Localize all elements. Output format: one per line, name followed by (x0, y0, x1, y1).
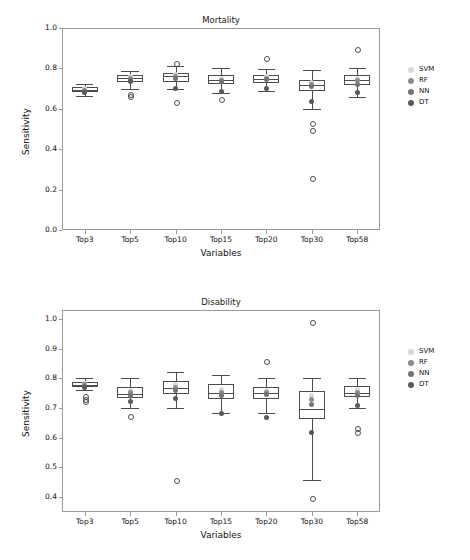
box-outlier (174, 478, 180, 484)
y-tick-mark (59, 378, 63, 379)
y-tick-label: 0.8 (32, 63, 57, 72)
y-tick-label: 0.6 (32, 433, 57, 442)
y-tick-label: 0.7 (32, 403, 57, 412)
legend-swatch-rf (408, 78, 414, 84)
x-tick-mark (130, 230, 131, 234)
y-tick-label: 0.4 (32, 492, 57, 501)
x-tick-mark (85, 230, 86, 234)
y-tick-mark (59, 230, 63, 231)
box-whisker (130, 378, 131, 386)
x-tick-label: Top5 (108, 235, 152, 244)
x-tick-mark (130, 512, 131, 516)
x-tick-label: Top10 (154, 517, 198, 526)
data-point-rf (309, 397, 314, 402)
data-point-nn (355, 393, 360, 398)
y-tick-mark (59, 467, 63, 468)
box-outlier (174, 61, 180, 67)
x-tick-mark (312, 230, 313, 234)
y-tick-label: 0.9 (32, 344, 57, 353)
box-whisker-cap (258, 378, 275, 379)
box-whisker (312, 419, 313, 480)
legend-label: SVM (419, 64, 434, 75)
box-whisker-cap (76, 378, 93, 379)
box-whisker-cap (76, 96, 93, 97)
box-outlier (174, 100, 180, 106)
box-whisker-cap (303, 378, 320, 379)
box-whisker-cap (303, 109, 320, 110)
x-tick-label: Top15 (199, 235, 243, 244)
x-axis-label-disability: Variables (62, 530, 380, 540)
x-tick-mark (266, 230, 267, 234)
box-outlier (310, 128, 316, 134)
y-axis-label-disability: Sensitivity (21, 390, 31, 437)
box-whisker-cap (167, 372, 184, 373)
box-whisker-cap (121, 89, 138, 90)
box-whisker (312, 378, 313, 390)
data-point-dt (219, 411, 224, 416)
box-whisker-cap (121, 378, 138, 379)
y-tick-label: 0.0 (32, 225, 57, 234)
box-outlier (128, 94, 134, 100)
x-tick-mark (176, 230, 177, 234)
x-tick-label: Top20 (244, 517, 288, 526)
y-tick-mark (59, 109, 63, 110)
y-tick-label: 0.5 (32, 462, 57, 471)
data-point-dt (355, 90, 360, 95)
data-point-nn (355, 82, 360, 87)
plot-area-mortality (62, 28, 380, 230)
data-point-nn (264, 77, 269, 82)
x-tick-label: Top3 (63, 235, 107, 244)
legend-swatch-rf (408, 360, 414, 366)
data-point-dt (219, 89, 224, 94)
x-tick-label: Top20 (244, 235, 288, 244)
x-tick-label: Top58 (335, 517, 379, 526)
box-whisker (312, 70, 313, 80)
x-tick-mark (357, 512, 358, 516)
x-tick-mark (266, 512, 267, 516)
y-tick-label: 0.2 (32, 185, 57, 194)
data-point-dt (264, 415, 269, 420)
legend-label: RF (419, 357, 428, 368)
x-tick-label: Top15 (199, 517, 243, 526)
box-whisker (266, 378, 267, 386)
x-tick-label: Top30 (290, 517, 334, 526)
chart-panel-disability: Disability Sensitivity Variables 0.40.50… (0, 288, 470, 552)
x-tick-label: Top30 (290, 235, 334, 244)
x-tick-label: Top3 (63, 517, 107, 526)
box-outlier (310, 496, 316, 502)
legend-swatch-nn (408, 371, 414, 377)
box-whisker-cap (121, 408, 138, 409)
data-point-nn (219, 393, 224, 398)
y-tick-mark (59, 190, 63, 191)
y-tick-mark (59, 497, 63, 498)
box-whisker (357, 378, 358, 385)
figure-root: Mortality Sensitivity Variables 0.00.20.… (0, 0, 470, 560)
y-tick-label: 0.4 (32, 144, 57, 153)
box-whisker (266, 399, 267, 413)
x-tick-mark (357, 230, 358, 234)
legend-label: DT (419, 97, 429, 108)
y-tick-label: 0.8 (32, 373, 57, 382)
y-tick-mark (59, 408, 63, 409)
box-outlier (355, 47, 361, 53)
x-tick-label: Top10 (154, 235, 198, 244)
y-tick-mark (59, 68, 63, 69)
box-whisker-cap (349, 97, 366, 98)
y-tick-mark (59, 149, 63, 150)
x-tick-label: Top58 (335, 235, 379, 244)
x-tick-mark (176, 512, 177, 516)
box-whisker (221, 375, 222, 384)
y-tick-label: 1.0 (32, 314, 57, 323)
box-whisker-cap (349, 408, 366, 409)
y-tick-label: 0.6 (32, 104, 57, 113)
y-axis-label-mortality: Sensitivity (21, 108, 31, 155)
chart-title-mortality: Mortality (62, 15, 380, 25)
x-tick-mark (312, 512, 313, 516)
box-outlier (310, 320, 316, 326)
x-tick-mark (221, 230, 222, 234)
data-point-dt (264, 86, 269, 91)
box-whisker-cap (258, 69, 275, 70)
box-whisker (176, 372, 177, 382)
chart-title-disability: Disability (62, 297, 380, 307)
legend-swatch-dt (408, 100, 414, 106)
